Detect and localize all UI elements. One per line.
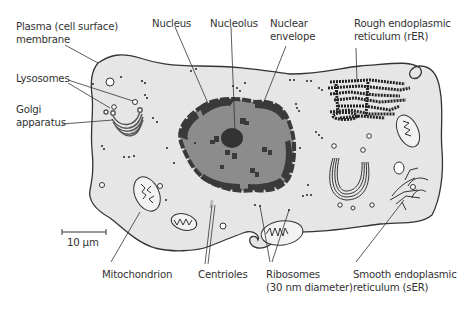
label-ribosomes: Ribosomes (30 nm diameter) <box>266 268 353 294</box>
label-plasma-membrane: Plasma (cell surface) membrane <box>16 20 118 46</box>
label-smooth-er: Smooth endoplasmic reticulum (sER) <box>353 268 457 294</box>
label-lysosomes: Lysosomes <box>16 72 70 85</box>
cell-diagram <box>0 0 469 311</box>
label-golgi: Golgi apparatus <box>16 103 66 129</box>
label-scale-bar: 10 µm <box>67 236 99 249</box>
nucleolus <box>221 128 243 148</box>
label-centrioles: Centrioles <box>198 268 248 281</box>
label-nucleus: Nucleus <box>152 17 191 30</box>
label-nucleolus: Nucleolus <box>210 17 258 30</box>
scale-bar <box>62 229 106 235</box>
label-mitochondrion: Mitochondrion <box>102 268 172 281</box>
label-nuclear-envelope: Nuclear envelope <box>270 17 315 43</box>
label-rough-er: Rough endoplasmic reticulum (rER) <box>354 17 451 43</box>
